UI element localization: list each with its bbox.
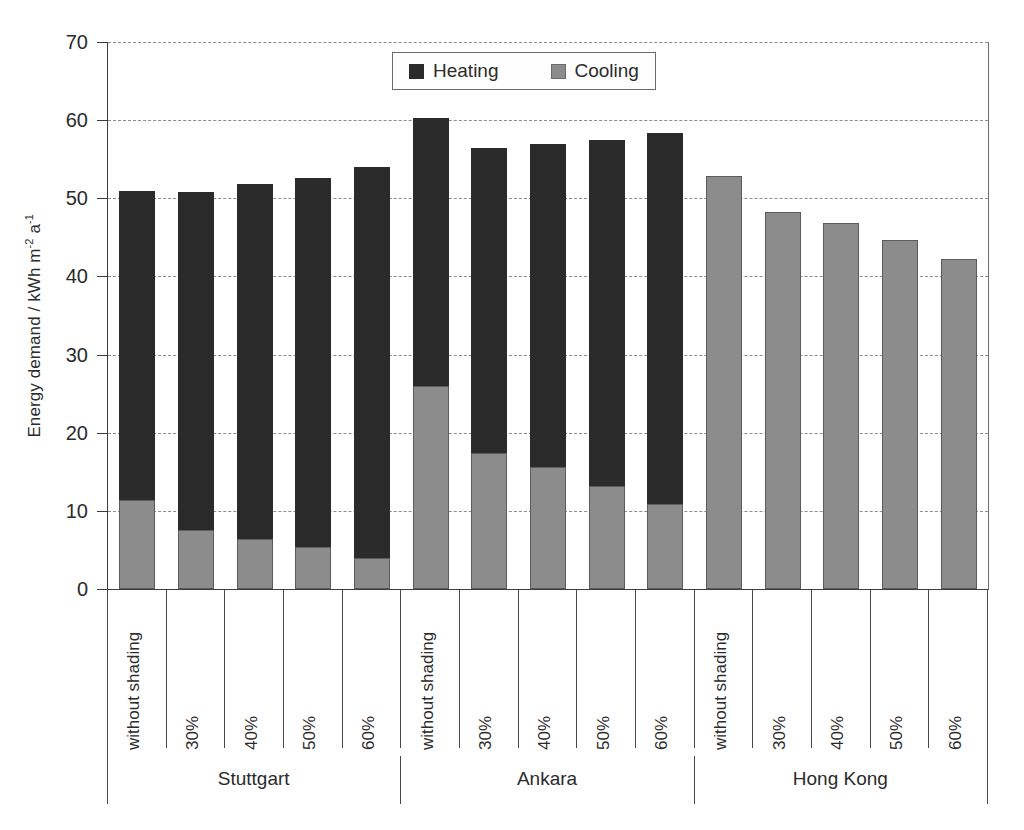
category-label: 50% xyxy=(594,716,614,750)
category-separator xyxy=(400,590,401,748)
bar-segment-heating xyxy=(119,191,155,500)
bar-segment-cooling xyxy=(471,453,507,589)
category-label: without shading xyxy=(711,632,731,750)
legend-item-cooling: Cooling xyxy=(551,60,639,82)
bar-segment-cooling xyxy=(530,467,566,589)
category-label: 60% xyxy=(652,716,672,750)
category-separator xyxy=(870,590,871,748)
bar-segment-heating xyxy=(530,144,566,468)
group-axis: StuttgartAnkaraHong Kong xyxy=(107,756,988,820)
legend-item-heating: Heating xyxy=(409,60,499,82)
y-tick-20: 20 xyxy=(97,433,108,434)
bar-segment-cooling xyxy=(237,539,273,589)
category-separator xyxy=(166,590,167,748)
bar xyxy=(765,212,801,589)
bar xyxy=(530,144,566,589)
category-separator xyxy=(811,590,812,748)
bar-segment-heating xyxy=(354,167,390,558)
y-tick-70: 70 xyxy=(97,42,108,43)
category-separator xyxy=(283,590,284,748)
bar-segment-cooling xyxy=(295,547,331,589)
bar-segment-heating xyxy=(589,140,625,486)
category-label: without shading xyxy=(124,632,144,750)
legend-label-cooling: Cooling xyxy=(575,60,639,82)
bar-segment-heating xyxy=(413,118,449,386)
bar xyxy=(647,133,683,589)
bar xyxy=(941,259,977,589)
bar-segment-cooling xyxy=(823,223,859,589)
category-label: without shading xyxy=(418,632,438,750)
y-axis-title: Energy demand / kWh m-2 a-1 xyxy=(23,161,45,491)
bar-segment-cooling xyxy=(119,500,155,589)
energy-demand-chart: Energy demand / kWh m-2 a-1 010203040506… xyxy=(0,0,1024,830)
bar xyxy=(589,140,625,589)
bar-segment-cooling xyxy=(178,530,214,589)
y-tick-label-60: 60 xyxy=(66,109,88,132)
bar-segment-heating xyxy=(178,192,214,530)
y-tick-label-0: 0 xyxy=(77,578,88,601)
chart-legend: Heating Cooling xyxy=(392,52,656,90)
group-label: Hong Kong xyxy=(694,768,987,790)
category-label: 30% xyxy=(183,716,203,750)
bar-segment-heating xyxy=(471,148,507,454)
bar xyxy=(413,118,449,589)
bar xyxy=(882,240,918,589)
y-tick-30: 30 xyxy=(97,355,108,356)
bar-segment-heating xyxy=(647,133,683,503)
category-separator xyxy=(342,590,343,748)
category-separator xyxy=(459,590,460,748)
category-separator xyxy=(576,590,577,748)
category-separator xyxy=(107,590,108,756)
category-separator xyxy=(635,590,636,748)
bar-segment-heating xyxy=(295,178,331,547)
category-label: 50% xyxy=(887,716,907,750)
category-label: 60% xyxy=(359,716,379,750)
y-tick-label-70: 70 xyxy=(66,31,88,54)
legend-swatch-heating-icon xyxy=(409,64,424,79)
bar-segment-cooling xyxy=(354,558,390,589)
bar-segment-cooling xyxy=(882,240,918,589)
gridline-60 xyxy=(108,120,988,121)
y-axis-title-exp2: -1 xyxy=(23,214,35,224)
y-tick-label-20: 20 xyxy=(66,422,88,445)
y-axis-title-mid: a xyxy=(25,224,44,238)
category-separator xyxy=(224,590,225,748)
y-axis-title-exp1: -2 xyxy=(23,238,35,248)
category-label: 60% xyxy=(946,716,966,750)
y-tick-label-10: 10 xyxy=(66,500,88,523)
y-axis-title-main: Energy demand / kWh m xyxy=(25,248,44,437)
y-tick-label-50: 50 xyxy=(66,187,88,210)
category-separator xyxy=(987,590,988,756)
gridline-70 xyxy=(108,42,988,43)
category-label: 30% xyxy=(476,716,496,750)
bar-segment-cooling xyxy=(706,176,742,589)
y-tick-label-30: 30 xyxy=(66,344,88,367)
legend-label-heating: Heating xyxy=(433,60,499,82)
y-tick-60: 60 xyxy=(97,120,108,121)
bar xyxy=(119,191,155,589)
category-label: 30% xyxy=(770,716,790,750)
bar xyxy=(471,148,507,590)
group-label: Stuttgart xyxy=(107,768,400,790)
y-tick-50: 50 xyxy=(97,198,108,199)
group-separator xyxy=(987,756,988,804)
category-separator xyxy=(694,590,695,748)
category-axis: without shading30%40%50%60%without shadi… xyxy=(107,590,988,756)
category-separator xyxy=(928,590,929,748)
category-label: 40% xyxy=(242,716,262,750)
bar xyxy=(354,167,390,589)
category-separator xyxy=(518,590,519,748)
category-label: 40% xyxy=(535,716,555,750)
y-tick-label-40: 40 xyxy=(66,265,88,288)
bar-segment-heating xyxy=(237,184,273,539)
group-label: Ankara xyxy=(400,768,693,790)
y-tick-10: 10 xyxy=(97,511,108,512)
bar xyxy=(823,223,859,589)
bar-segment-cooling xyxy=(413,386,449,589)
category-label: 50% xyxy=(300,716,320,750)
y-tick-40: 40 xyxy=(97,276,108,277)
bar xyxy=(237,184,273,589)
bar xyxy=(178,192,214,589)
bar xyxy=(295,178,331,589)
plot-area: 010203040506070 xyxy=(107,42,989,590)
